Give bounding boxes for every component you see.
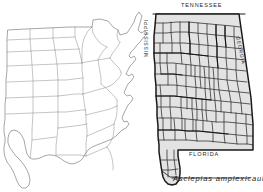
label-mississippi: MISSISSIPPI xyxy=(144,19,149,57)
species-name-caption: Asclepias amplexicaulis xyxy=(173,175,263,183)
eastern-us-overview-panel xyxy=(4,12,147,188)
label-florida: FLORIDA xyxy=(189,152,219,158)
distribution-map-figure: TENNESSEE MISSISSIPPI GEORGIA FLORIDA As… xyxy=(0,0,263,192)
label-tennessee: TENNESSEE xyxy=(181,3,222,9)
map-artwork xyxy=(0,0,263,192)
